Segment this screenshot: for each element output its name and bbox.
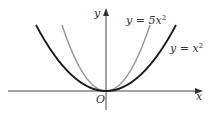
y-axis-arrow-icon xyxy=(103,8,109,16)
curve-5x2-label: y = 5x2 xyxy=(125,14,166,27)
origin-label: O xyxy=(96,93,105,106)
curve-x2-label: y = x2 xyxy=(169,42,203,55)
x-axis-label: x xyxy=(196,90,203,103)
chart-canvas: y x O y = 5x2 y = x2 xyxy=(0,0,217,115)
y-axis-label: y xyxy=(93,7,101,20)
